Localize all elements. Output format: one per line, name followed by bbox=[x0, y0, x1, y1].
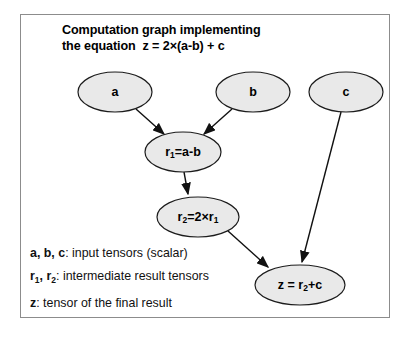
legend-description-intermediate: : intermediate result tensors bbox=[56, 269, 209, 283]
node-a-label: a bbox=[112, 85, 120, 99]
legend-item-intermediate: r1, r2: intermediate result tensors bbox=[30, 268, 280, 288]
computation-graph-figure: Computation graph implementing the equat… bbox=[0, 0, 412, 339]
node-r1[interactable]: r1=a-b bbox=[145, 132, 221, 172]
node-c-label: c bbox=[343, 85, 350, 99]
edge-r1-to-r2 bbox=[184, 172, 188, 194]
legend-symbols-inputs: a, b, c bbox=[30, 246, 65, 260]
node-c[interactable]: c bbox=[309, 72, 383, 112]
legend-item-inputs: a, b, c: input tensors (scalar) bbox=[30, 245, 280, 261]
edge-a-to-r1 bbox=[136, 109, 164, 134]
graph-edges bbox=[136, 109, 341, 267]
node-b-label: b bbox=[249, 85, 257, 99]
legend-description-inputs: : input tensors (scalar) bbox=[65, 246, 188, 260]
edge-c-to-z bbox=[302, 112, 341, 262]
node-r2[interactable]: r2=2×r1 bbox=[157, 197, 239, 237]
node-a[interactable]: a bbox=[78, 72, 152, 112]
legend-description-final: : tensor of the final result bbox=[36, 296, 172, 310]
node-z-label: z = r2+c bbox=[278, 278, 322, 293]
legend-item-final: z: tensor of the final result bbox=[30, 295, 280, 311]
edge-b-to-r1 bbox=[204, 109, 232, 134]
node-b[interactable]: b bbox=[216, 72, 290, 112]
legend-symbols-intermediate: r1, r2 bbox=[30, 269, 56, 283]
legend: a, b, c: input tensors (scalar) r1, r2: … bbox=[30, 245, 280, 318]
